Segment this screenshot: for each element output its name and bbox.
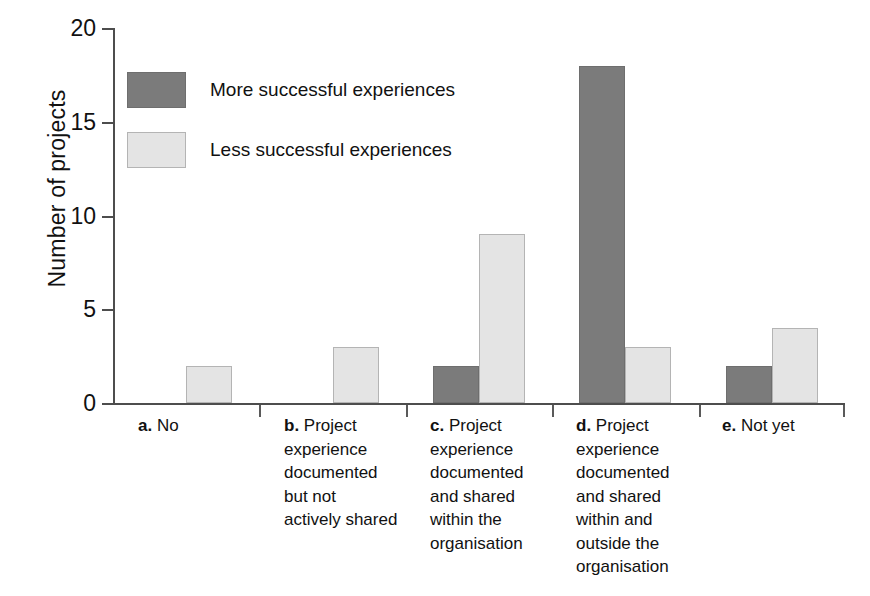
x-axis-labels: a. Nob. Projectexperiencedocumentedbut n… (113, 414, 869, 596)
x-label-d-line-4: within and (576, 508, 670, 532)
x-label-c-line-1: experience (430, 438, 524, 462)
bar-d-more (579, 66, 625, 404)
y-tick-0: 0 (102, 403, 113, 405)
x-label-c-line-0: c. Project (430, 414, 524, 438)
bar-e-more (726, 366, 772, 404)
x-label-d-line-5: outside the (576, 532, 670, 556)
x-label-b: b. Projectexperiencedocumentedbut notact… (284, 414, 397, 532)
legend-label-less: Less successful experiences (210, 139, 452, 161)
x-label-e-line-0: e. Not yet (722, 414, 795, 438)
bar-chart-figure: Number of projects 20151050 More success… (0, 0, 870, 596)
x-label-c-line-3: and shared (430, 485, 524, 509)
x-label-d-line-3: and shared (576, 485, 670, 509)
x-label-c-line-2: documented (430, 461, 524, 485)
x-label-d-line-0: d. Project (576, 414, 670, 438)
x-label-e: e. Not yet (722, 414, 795, 438)
x-label-d-line-6: organisation (576, 555, 670, 579)
bar-a-less (186, 366, 232, 404)
y-tick-15: 15 (102, 122, 113, 124)
y-axis-line (113, 28, 115, 403)
legend-item-more: More successful experiences (127, 72, 455, 108)
x-label-c-line-5: organisation (430, 532, 524, 556)
x-label-key-a: a. (138, 416, 152, 435)
bar-c-less (479, 234, 525, 403)
y-tick-label-0: 0 (83, 390, 96, 417)
x-label-key-b: b. (284, 416, 299, 435)
y-tick-10: 10 (102, 216, 113, 218)
legend-item-less: Less successful experiences (127, 132, 455, 168)
y-tick-label-10: 10 (70, 203, 96, 230)
x-label-a-line-0: a. No (138, 414, 179, 438)
legend-swatch-more-icon (127, 72, 186, 108)
x-label-b-line-3: but not (284, 485, 397, 509)
x-label-b-line-4: actively shared (284, 508, 397, 532)
bar-e-less (772, 328, 818, 403)
y-tick-20: 20 (102, 28, 113, 30)
x-label-b-line-1: experience (284, 438, 397, 462)
x-label-a: a. No (138, 414, 179, 438)
bar-c-more (433, 366, 479, 404)
x-label-d: d. Projectexperiencedocumentedand shared… (576, 414, 670, 579)
legend-label-more: More successful experiences (210, 79, 455, 101)
x-label-key-d: d. (576, 416, 591, 435)
bar-b-less (333, 347, 379, 403)
legend: More successful experiences Less success… (127, 72, 455, 192)
y-tick-label-5: 5 (83, 296, 96, 323)
x-label-c: c. Projectexperiencedocumentedand shared… (430, 414, 524, 555)
bar-d-less (625, 347, 671, 403)
y-axis-title: Number of projects (44, 24, 71, 354)
x-label-b-line-2: documented (284, 461, 397, 485)
x-label-c-line-4: within the (430, 508, 524, 532)
x-label-d-line-1: experience (576, 438, 670, 462)
x-axis-line (113, 403, 845, 405)
y-tick-5: 5 (102, 309, 113, 311)
x-label-b-line-0: b. Project (284, 414, 397, 438)
y-tick-label-15: 15 (70, 109, 96, 136)
x-label-key-c: c. (430, 416, 444, 435)
x-label-key-e: e. (722, 416, 736, 435)
y-tick-label-20: 20 (70, 15, 96, 42)
legend-swatch-less-icon (127, 132, 186, 168)
x-label-d-line-2: documented (576, 461, 670, 485)
